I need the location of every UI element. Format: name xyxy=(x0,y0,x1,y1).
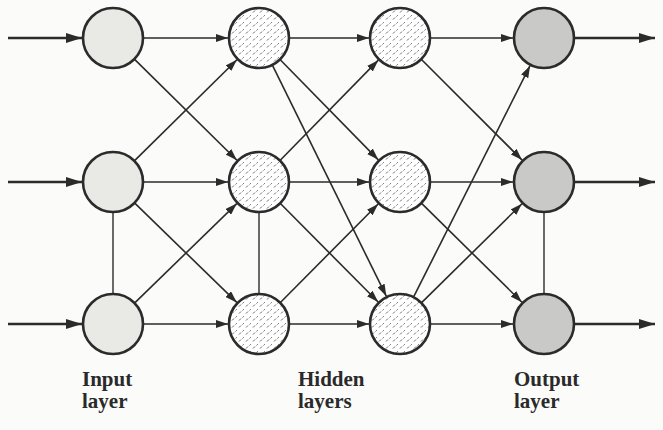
hidden-layers-label-line1: Hidden xyxy=(298,368,365,390)
nodes xyxy=(83,8,574,354)
output-node xyxy=(514,8,574,68)
hidden-layers-label-line2: layers xyxy=(298,390,365,412)
hidden1-node xyxy=(229,294,289,354)
input-node xyxy=(83,8,143,68)
input-node xyxy=(83,152,143,212)
hidden2-node xyxy=(370,152,430,212)
output-node xyxy=(514,294,574,354)
hidden1-node xyxy=(229,152,289,212)
input-layer-label: Input layer xyxy=(82,368,132,412)
connection-arrow xyxy=(421,59,522,160)
input-layer-label-line2: layer xyxy=(82,390,132,412)
output-layer-label-line2: layer xyxy=(514,390,579,412)
output-layer-label-line1: Output xyxy=(514,368,579,390)
hidden2-node xyxy=(370,294,430,354)
hidden1-node xyxy=(229,8,289,68)
output-layer-label: Output layer xyxy=(514,368,579,412)
neural-network-diagram xyxy=(0,0,663,430)
hidden2-node xyxy=(370,8,430,68)
input-layer-label-line1: Input xyxy=(82,368,132,390)
output-node xyxy=(514,152,574,212)
input-node xyxy=(83,294,143,354)
connections xyxy=(134,38,530,324)
hidden-layers-label: Hidden layers xyxy=(298,368,365,412)
